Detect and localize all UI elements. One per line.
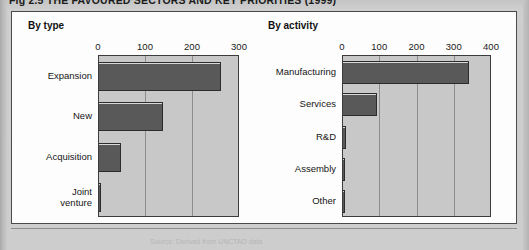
bar: [342, 126, 346, 149]
category-label: New: [14, 110, 92, 121]
horizontal-rule: [11, 228, 517, 229]
chart-title: By activity: [268, 20, 318, 31]
figure-frame: By type0100200300ExpansionNewAcquisition…: [11, 11, 517, 224]
axis-tick-label: 200: [184, 41, 200, 52]
axis-tick-label: 0: [339, 41, 344, 52]
plot-area: [342, 55, 491, 217]
page-gutter-left: [0, 0, 7, 250]
bar: [342, 158, 345, 181]
category-label: Manufacturing: [14, 66, 336, 77]
bar-highlight: [99, 184, 100, 185]
category-label: Services: [14, 98, 336, 109]
bar-highlight: [343, 191, 344, 192]
x-axis-tick-labels: 0100200300400: [342, 41, 491, 53]
category-label: Acquisition: [14, 151, 92, 162]
chart-title: By type: [28, 20, 64, 31]
category-label: R&D: [14, 131, 336, 142]
category-label: Other: [14, 195, 336, 206]
bar: [342, 61, 469, 84]
bar-highlight: [343, 159, 344, 160]
bar-highlight: [99, 63, 220, 64]
axis-tick-label: 300: [231, 41, 247, 52]
bar-highlight: [343, 94, 376, 95]
category-label: Assembly: [14, 163, 336, 174]
page-gutter-right: [523, 0, 529, 250]
bar-highlight: [99, 144, 120, 145]
source-note: Source: Derived from UNCTAD data: [150, 238, 410, 249]
bar-highlight: [343, 127, 345, 128]
figure-title: Fig 2.5 THE FAVOURED SECTORS AND KEY PRI…: [9, 0, 439, 8]
axis-tick-label: 200: [409, 41, 425, 52]
bar: [342, 190, 345, 213]
x-axis-tick-labels: 0100200300: [98, 41, 239, 53]
axis-tick-label: 100: [137, 41, 153, 52]
bar: [342, 93, 377, 116]
axis-tick-label: 300: [446, 41, 462, 52]
bar-highlight: [343, 62, 468, 63]
axis-tick-label: 0: [95, 41, 100, 52]
axis-tick-label: 100: [371, 41, 387, 52]
axis-tick-label: 400: [483, 41, 499, 52]
